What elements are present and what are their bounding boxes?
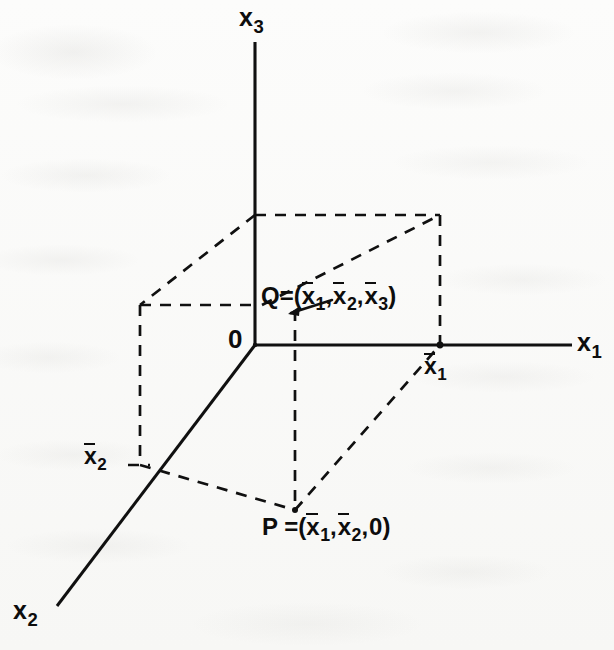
x3-axis-label: x3 — [239, 5, 264, 36]
x1bar-tick-dot — [437, 342, 444, 349]
x1-axis-label: x1 — [577, 330, 602, 361]
x1bar-sub: 1 — [437, 365, 446, 384]
point-q-coord-1-base: x — [333, 282, 346, 309]
point-p-coord-0-overbar — [306, 513, 317, 515]
x2bar-sub: 2 — [97, 455, 106, 474]
point-q-comma-0: , — [325, 282, 333, 309]
point-q-coord-2-overbar — [365, 282, 376, 284]
point-p-comma-0: , — [330, 513, 338, 540]
point-p-label: P =(x1,x2,0) — [262, 515, 390, 545]
point-q-name: Q — [261, 282, 280, 309]
x1bar-base: x — [424, 353, 437, 379]
point-q-open-paren: ( — [294, 282, 302, 309]
point-p-coord-0-sub: 1 — [320, 525, 330, 545]
x2-axis-label-sub: 2 — [27, 609, 37, 630]
box-top-left-edge — [140, 215, 255, 305]
x1bar-overbar — [424, 353, 435, 355]
x1-axis-label-base: x — [577, 328, 591, 356]
point-q-comma-1: , — [357, 282, 365, 309]
point-q-coord-1-sub: 2 — [347, 294, 357, 314]
x3-axis-label-sub: 3 — [253, 16, 263, 37]
point-q-coord-2-sub: 3 — [378, 294, 388, 314]
origin-label: 0 — [228, 326, 242, 352]
point-q-close-paren: ) — [388, 282, 396, 309]
x1-axis-label-sub: 1 — [591, 341, 601, 362]
box-bottom-right-edge — [295, 345, 440, 510]
point-p-coord-0-base: x — [306, 513, 319, 540]
point-q-label: Q=(x1,x2,x3) — [261, 284, 396, 314]
box-bottom-back-edge — [140, 465, 295, 510]
point-q-coord-0-base: x — [302, 282, 315, 309]
point-p-equals: = — [284, 513, 298, 540]
point-q-equals: = — [280, 282, 294, 309]
x2-axis-label: x2 — [13, 598, 38, 629]
point-p-coord-2-base: 0 — [369, 513, 382, 540]
point-p-close-paren: ) — [382, 513, 390, 540]
figure-canvas: x3 x1 x2 0 x1 x2 Q=(x1,x2,x3) P =(x1,x2,… — [0, 0, 614, 650]
point-q-coord-1-overbar — [333, 282, 344, 284]
point-p-comma-1: , — [361, 513, 369, 540]
x2bar-tick-label: x2 — [84, 445, 107, 473]
x2bar-base: x — [84, 443, 97, 469]
point-p-open-paren: ( — [298, 513, 306, 540]
point-q-coord-0-sub: 1 — [316, 294, 326, 314]
x3-axis-label-base: x — [239, 3, 253, 31]
point-q-coord-0-overbar — [302, 282, 313, 284]
point-p-coord-1-base: x — [338, 513, 351, 540]
x2-axis-line — [57, 345, 255, 606]
point-p-coord-1-sub: 2 — [352, 525, 362, 545]
point-p-coord-1-overbar — [338, 513, 349, 515]
point-p-name: P — [262, 513, 278, 540]
origin-dot — [253, 343, 257, 347]
x2bar-overbar — [84, 443, 95, 445]
point-q-coord-2-base: x — [365, 282, 378, 309]
x2-axis-label-base: x — [13, 596, 27, 624]
x1bar-tick-label: x1 — [424, 355, 447, 383]
coordinate-diagram — [0, 0, 614, 650]
